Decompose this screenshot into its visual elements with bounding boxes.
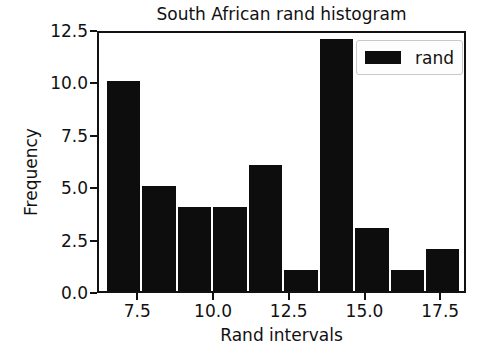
x-tick-mark: [212, 293, 214, 300]
x-tick-label: 7.5: [124, 301, 151, 321]
x-tick-mark: [136, 293, 138, 300]
y-tick-mark: [90, 240, 97, 242]
y-tick-mark: [90, 30, 97, 32]
y-tick-label: 2.5: [61, 231, 88, 251]
histogram-bar: [426, 249, 459, 291]
y-tick-mark: [90, 135, 97, 137]
y-tick-label: 10.0: [50, 73, 88, 93]
x-tick-mark: [364, 293, 366, 300]
chart-title: South African rand histogram: [97, 4, 466, 24]
legend-label-rand: rand: [415, 48, 454, 68]
y-tick-label: 12.5: [50, 21, 88, 41]
histogram-bar: [355, 228, 388, 291]
histogram-bar: [391, 270, 424, 291]
x-axis-label: Rand intervals: [97, 325, 466, 345]
y-tick-mark: [90, 82, 97, 84]
y-tick-label: 0.0: [61, 283, 88, 303]
histogram-bar: [249, 165, 282, 291]
histogram-bar: [107, 81, 140, 291]
histogram-figure: South African rand histogram 7.510.012.5…: [0, 0, 486, 363]
histogram-bar: [142, 186, 175, 291]
x-tick-label: 17.5: [421, 301, 459, 321]
y-tick-label: 5.0: [61, 178, 88, 198]
legend-swatch-rand: [365, 51, 401, 64]
y-tick-label: 7.5: [61, 126, 88, 146]
x-tick-label: 15.0: [346, 301, 384, 321]
histogram-bar: [320, 39, 353, 291]
y-tick-mark: [90, 292, 97, 294]
x-tick-mark: [439, 293, 441, 300]
x-tick-mark: [288, 293, 290, 300]
legend: rand: [356, 40, 463, 75]
histogram-bar: [284, 270, 317, 291]
x-tick-label: 12.5: [270, 301, 308, 321]
y-axis-label: Frequency: [21, 97, 41, 247]
histogram-bar: [213, 207, 246, 291]
x-tick-label: 10.0: [194, 301, 232, 321]
histogram-bar: [178, 207, 211, 291]
y-tick-mark: [90, 187, 97, 189]
